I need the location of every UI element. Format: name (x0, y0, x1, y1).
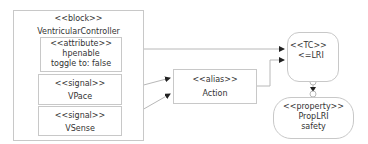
tc-stereotype: <<TC>> (290, 41, 338, 51)
block-name: VentricularController (14, 27, 143, 37)
property-stereotype: <<property>> (274, 102, 353, 112)
alias-action[interactable]: <<alias>> Action (173, 69, 257, 104)
property-name: PropLRI (274, 112, 353, 122)
signal-name: VPace (39, 92, 121, 102)
attribute-stereotype: <<attribute>> (41, 39, 121, 49)
attribute-detail: toggle to: false (41, 59, 121, 69)
block-stereotype: <<block>> (14, 14, 143, 24)
attribute-hpenable[interactable]: <<attribute>> hpenable toggle to: false (40, 37, 122, 72)
alias-name: Action (174, 89, 256, 99)
alias-to-tc-line (256, 60, 284, 86)
property-proplri[interactable]: <<property>> PropLRI safety (273, 97, 354, 139)
signal-stereotype: <<signal>> (39, 111, 121, 121)
attribute-name: hpenable (41, 49, 121, 59)
signal-vpace[interactable]: <<signal>> VPace (38, 74, 122, 105)
signal-name: VSense (39, 124, 121, 134)
property-detail: safety (274, 122, 353, 132)
alias-stereotype: <<alias>> (174, 75, 256, 85)
signal-vsense[interactable]: <<signal>> VSense (38, 106, 122, 136)
signal-stereotype: <<signal>> (39, 79, 121, 89)
tc-lri[interactable]: <<TC>> <=LRI (287, 32, 339, 82)
tc-name: <=LRI (290, 51, 338, 61)
